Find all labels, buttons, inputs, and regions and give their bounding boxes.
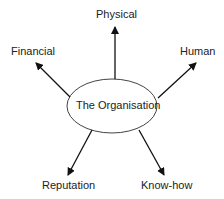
node-knowhow: Know-how (141, 179, 192, 191)
arrow-human (158, 63, 196, 98)
arrow-reputation (68, 130, 92, 175)
center-label: The Organisation (76, 99, 160, 111)
node-financial: Financial (11, 45, 55, 57)
node-physical: Physical (96, 8, 137, 20)
node-reputation: Reputation (42, 179, 95, 191)
arrow-knowhow (139, 130, 164, 175)
diagram-canvas: Physical Financial Human The Organisatio… (0, 0, 224, 199)
arrow-financial (36, 63, 70, 97)
node-human: Human (180, 45, 215, 57)
